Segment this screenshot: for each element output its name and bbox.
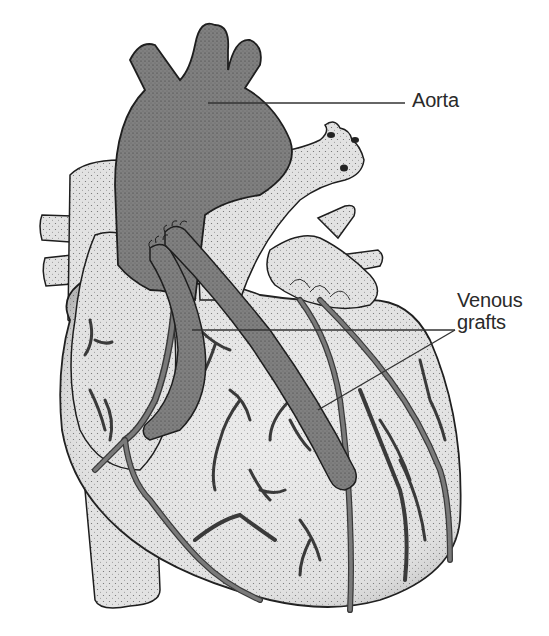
aorta-label: Aorta	[412, 89, 459, 111]
venous-grafts-label: Venous grafts	[457, 289, 523, 333]
venous-grafts-label-line2: grafts	[457, 311, 523, 333]
heart-bypass-diagram: Aorta Venous grafts	[0, 0, 549, 636]
venous-grafts-label-line1: Venous	[457, 289, 523, 311]
pulmonary-veins-left	[40, 215, 72, 286]
